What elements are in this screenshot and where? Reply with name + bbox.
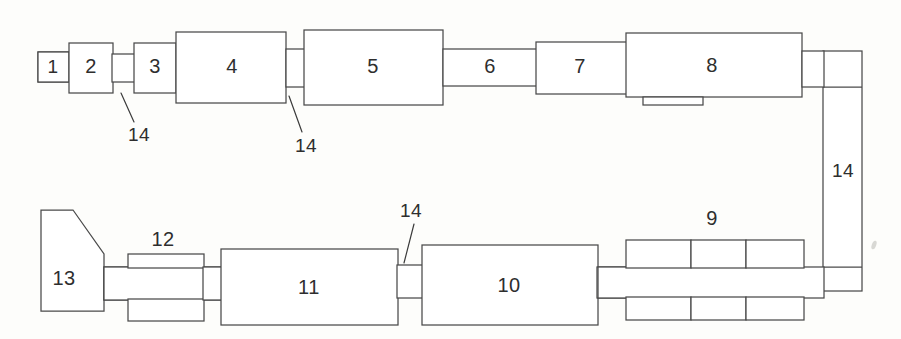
block-1[interactable]: 1 (38, 52, 69, 82)
block-7-label: 7 (574, 55, 586, 77)
block-12-label: 12 (151, 228, 174, 250)
block-13-label: 13 (52, 267, 75, 289)
block-9-label: 9 (706, 207, 718, 229)
block-13[interactable]: 13 (41, 210, 104, 311)
block-10[interactable]: 10 (422, 245, 598, 325)
block-8[interactable]: 8 (626, 33, 802, 97)
conn-2-to-3 (112, 54, 135, 82)
block-6-label: 6 (484, 55, 496, 77)
block-4[interactable]: 4 (176, 32, 286, 103)
block-diagram: 1 2 3 4 5 6 7 (0, 0, 901, 339)
block-4-label: 4 (226, 55, 238, 77)
block-6-bar[interactable]: 6 (443, 49, 537, 86)
block-2[interactable]: 2 (69, 43, 113, 93)
block-3[interactable]: 3 (134, 43, 176, 93)
conn-8-to-return-rail (802, 51, 824, 87)
callout-14-c: 14 (832, 160, 854, 181)
tab-under-block-8 (643, 97, 703, 105)
block-8-label: 8 (706, 54, 718, 76)
conn-4-to-5 (286, 49, 305, 87)
component-9[interactable]: 9 (598, 207, 824, 320)
block-5-label: 5 (367, 55, 379, 77)
callout-14-c-label: 14 (832, 160, 854, 181)
scan-artifact (870, 240, 877, 250)
block-11[interactable]: 11 (221, 249, 398, 325)
callout-14-d-label: 14 (400, 200, 422, 221)
callout-14-b-label: 14 (295, 135, 317, 156)
block-2-label: 2 (85, 55, 97, 77)
callout-14-d: 14 (400, 200, 422, 263)
block-1-label: 1 (47, 56, 58, 77)
callout-14-a-label: 14 (128, 124, 150, 145)
conn-11-to-10 (397, 265, 423, 298)
diagram-canvas: 1 2 3 4 5 6 7 (0, 0, 901, 339)
block-7[interactable]: 7 (536, 42, 628, 94)
block-11-label: 11 (298, 276, 320, 298)
block-10-label: 10 (497, 274, 520, 296)
callout-14-a: 14 (121, 93, 150, 145)
block-5[interactable]: 5 (304, 30, 443, 105)
block-3-label: 3 (149, 55, 161, 77)
